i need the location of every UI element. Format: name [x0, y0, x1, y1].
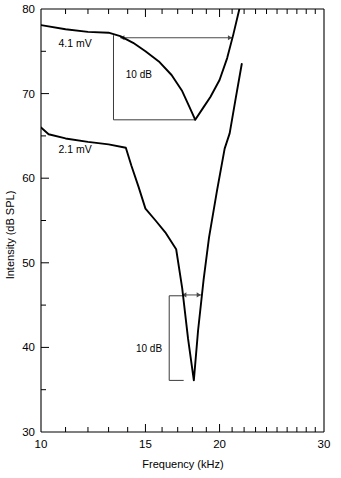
figure-root: 10152030 304050607080 4.1 mV2.1 mV 10 dB…	[0, 0, 341, 478]
y-tick-label-70: 70	[22, 88, 35, 100]
scale-bar-label-1: 10 dB	[136, 343, 162, 354]
tuning-curve-chart: 10152030 304050607080 4.1 mV2.1 mV 10 dB…	[0, 0, 341, 478]
x-tick-label-20: 20	[213, 438, 226, 450]
y-tick-label-80: 80	[22, 3, 35, 15]
scale-bar-label-0: 10 dB	[126, 69, 152, 80]
x-tick-label-10: 10	[35, 438, 48, 450]
x-axis-title: Frequency (kHz)	[142, 458, 223, 470]
x-tick-label-15: 15	[139, 438, 152, 450]
y-tick-label-50: 50	[22, 257, 35, 269]
y-tick-label-60: 60	[22, 172, 35, 184]
y-axis-title: Intensity (dB SPL)	[4, 191, 16, 280]
y-tick-label-30: 30	[22, 426, 35, 438]
x-tick-label-30: 30	[318, 438, 331, 450]
series-label-2-1-mv: 2.1 mV	[58, 143, 91, 155]
series-label-4-1-mv: 4.1 mV	[58, 37, 91, 49]
y-tick-label-40: 40	[22, 341, 35, 353]
